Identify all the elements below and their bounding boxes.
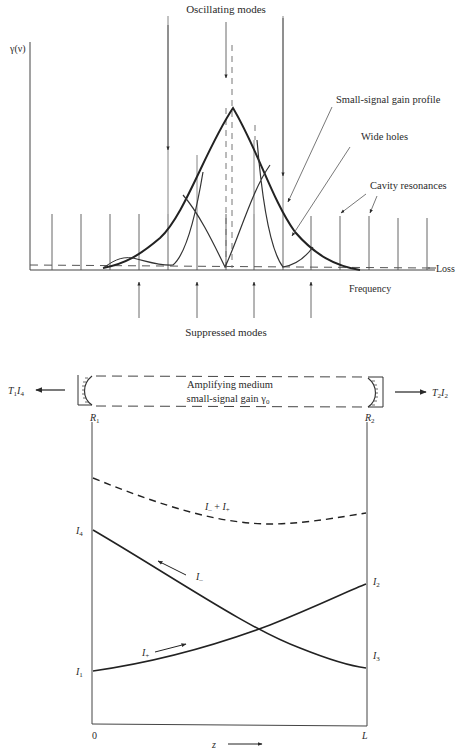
oscillating-mode-lines: [168, 16, 283, 214]
small-signal-gain-profile-label: Small-signal gain profile: [336, 94, 441, 105]
amplifying-medium-label: Amplifying medium: [187, 379, 273, 390]
i2-label: I2: [372, 576, 380, 589]
backward-wave-arrow: [158, 561, 186, 575]
forward-wave-label: I+: [141, 647, 149, 660]
i4-label: I4: [75, 525, 83, 538]
z-start-label: 0: [92, 730, 97, 741]
backward-wave-label: I–: [195, 571, 203, 584]
output-left-label: T1I4: [8, 385, 24, 398]
backward-intensity-curve: [93, 530, 366, 668]
z-axis-label: z: [211, 739, 216, 750]
y-axis-label: γ(ν): [9, 43, 26, 55]
suppressed-mode-arrows: [139, 282, 311, 318]
cavity-top-boundary: [96, 376, 366, 377]
sum-intensity-label: I– + I+: [204, 501, 230, 514]
wide-holes-label: Wide holes: [361, 131, 408, 142]
mirror-r1-label: R1: [89, 412, 100, 425]
suppressed-modes-label: Suppressed modes: [185, 326, 267, 338]
hole-left-rim: [160, 195, 183, 208]
i3-label: I3: [372, 650, 380, 663]
cavity-resonance-leader-2: [370, 196, 377, 213]
forward-wave-arrow: [155, 644, 186, 652]
laser-cavity-figure: Amplifying medium small-signal gain γ0 R…: [8, 375, 448, 750]
cavity-resonance-leader-1: [341, 194, 366, 213]
small-signal-gain-label: small-signal gain γ0: [187, 393, 270, 406]
cavity-resonance-lines: [52, 214, 427, 270]
output-right-label: T2I2: [432, 387, 448, 400]
plot-bottom-axis: [92, 724, 367, 726]
gain-spectrum-figure: Oscillating modes γ(ν) Frequency Loss: [9, 3, 455, 338]
cavity-resonances-label: Cavity resonances: [370, 180, 447, 191]
oscillating-mode-dashed-lines: [226, 45, 255, 268]
sum-intensity-curve: [93, 478, 366, 524]
z-end-label: L: [361, 730, 368, 741]
cavity-bottom-boundary: [96, 406, 366, 407]
frequency-label: Frequency: [349, 283, 391, 294]
loss-label: Loss: [436, 263, 455, 274]
i1-label: I1: [75, 666, 83, 679]
mirror-r2-label: R2: [364, 412, 375, 425]
mirror-left: [85, 376, 93, 405]
gain-profile-leader-1: [288, 107, 332, 202]
laser-gain-diagram: Oscillating modes γ(ν) Frequency Loss: [0, 0, 462, 754]
wide-holes-leader: [292, 147, 350, 236]
mirror-right: [368, 378, 376, 407]
oscillating-modes-label: Oscillating modes: [186, 3, 266, 15]
saturated-gain-curve: [133, 140, 313, 267]
small-signal-gain-profile: [103, 108, 360, 270]
loss-line: [30, 265, 430, 268]
